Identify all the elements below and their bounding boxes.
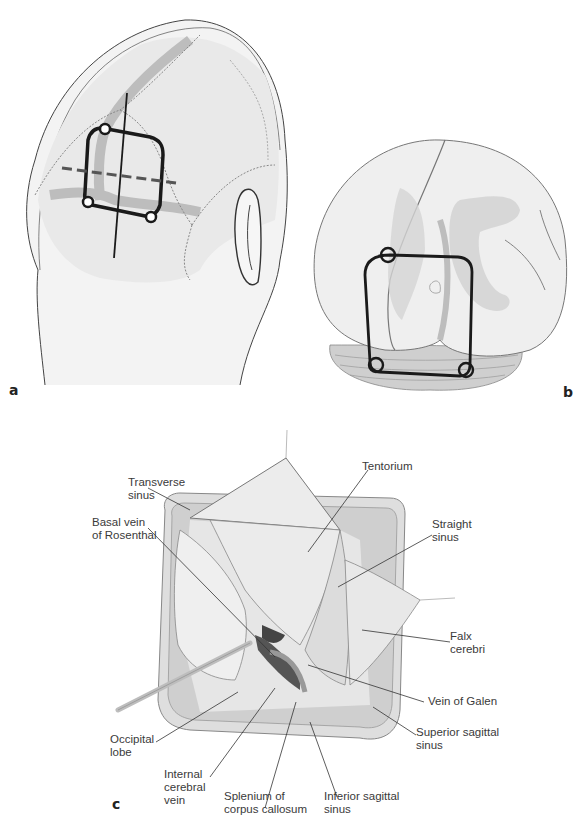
label-inferior-sagittal-sinus: Inferior sagittal sinus: [324, 790, 399, 816]
surgical-exposure-drawing: [0, 430, 578, 814]
panel-label-b: b: [563, 384, 573, 400]
panel-b-brain-illustration: b: [290, 100, 578, 400]
label-superior-sagittal-sinus: Superior sagittal sinus: [416, 726, 499, 752]
label-transverse-sinus: Transverse sinus: [128, 476, 185, 502]
panel-a-head-illustration: a: [0, 0, 290, 400]
panel-label-a: a: [9, 382, 18, 398]
label-falx-cerebri: Falx cerebri: [450, 630, 485, 656]
panel-c-surgical-exposure: Transverse sinus Tentorium Straight sinu…: [0, 430, 578, 814]
label-basal-vein-of-rosenthal: Basal vein of Rosenthal: [92, 516, 157, 542]
panel-label-c: c: [112, 796, 120, 812]
label-straight-sinus: Straight sinus: [432, 518, 472, 544]
label-tentorium: Tentorium: [362, 460, 413, 473]
label-occipital-lobe: Occipital lobe: [110, 733, 154, 759]
head-drawing: [0, 0, 290, 400]
brain-drawing: [290, 100, 578, 400]
label-internal-cerebral-vein: Internal cerebral vein: [164, 768, 206, 807]
label-splenium-of-corpus-callosum: Splenium of corpus callosum: [224, 790, 307, 816]
label-vein-of-galen: Vein of Galen: [428, 695, 497, 708]
